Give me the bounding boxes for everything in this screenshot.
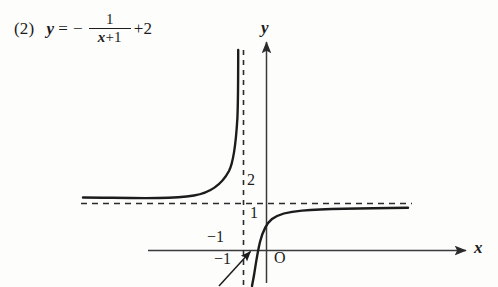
- graph-canvas: [0, 0, 498, 287]
- curve-left-branch: [83, 50, 238, 198]
- figure-page: (2) y = − 1 x+1 +2: [0, 0, 498, 287]
- y-tick-label-2: 2: [247, 171, 255, 189]
- graph-figure: y x O 2 1 −1 −1: [0, 0, 498, 287]
- x-axis-label: x: [474, 238, 483, 258]
- curve-right-branch: [252, 208, 408, 286]
- root-label: −1: [214, 250, 231, 268]
- y-axis-label: y: [261, 18, 269, 38]
- y-tick-label-1: 1: [250, 204, 258, 222]
- origin-label: O: [274, 249, 286, 267]
- asymptote-x-label: −1: [207, 228, 224, 246]
